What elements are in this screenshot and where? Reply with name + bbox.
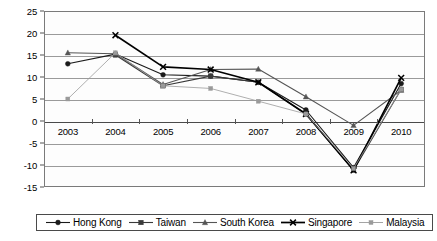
x-tick-mark [282,119,283,124]
data-point-marker [398,75,404,81]
legend-item-malaysia[interactable]: Malaysia [355,217,427,228]
y-tick-label: -5 [29,138,37,149]
series-layer [44,11,425,187]
x-tick-mark [92,119,93,124]
legend-label: South Korea [220,217,274,228]
legend-swatch-filled-triangle-icon [192,217,218,228]
data-point-marker [303,94,308,99]
series-south-korea [65,50,404,128]
y-axis: 2520151050-5-10-15 [0,0,44,241]
data-point-marker [66,97,70,101]
legend-label: Malaysia [386,217,424,228]
data-point-marker [208,74,213,79]
x-tick-mark [235,119,236,124]
x-tick-label: 2003 [58,126,78,137]
x-tick-mark [187,119,188,124]
legend-item-hong-kong[interactable]: Hong Kong [42,217,125,228]
legend-swatch-filled-square-icon [128,217,154,228]
x-tick-label: 2005 [153,126,173,137]
legend-item-taiwan[interactable]: Taiwan [125,217,189,228]
x-tick-mark [377,119,378,124]
legend-item-south-korea[interactable]: South Korea [189,217,277,228]
y-tick-label: 15 [27,50,37,61]
x-tick-label: 2004 [105,126,125,137]
y-tick-label: 0 [32,116,37,127]
x-tick-label: 2009 [343,126,363,137]
y-tick-label: 10 [27,72,37,83]
y-tick-label: -15 [24,182,37,193]
legend-label: Hong Kong [73,217,122,228]
y-tick-label: -10 [24,160,37,171]
data-point-marker [369,221,373,225]
legend-label: Singapore [308,217,352,228]
legend-label: Taiwan [156,217,186,228]
x-tick-mark [330,119,331,124]
data-point-marker [352,167,356,171]
data-point-marker [56,220,61,225]
data-point-marker [113,32,119,38]
legend-swatch-filled-diamond-icon [45,217,71,228]
x-tick-label: 2008 [296,126,316,137]
x-tick-mark [139,119,140,124]
y-tick-label: 5 [32,94,37,105]
data-point-marker [161,84,165,88]
data-point-marker [65,61,70,66]
legend-item-singapore[interactable]: Singapore [277,217,355,228]
x-tick-label: 2006 [201,126,221,137]
x-tick-label: 2010 [391,126,411,137]
legend-swatch-light-square-icon [358,217,384,228]
data-point-marker [113,51,117,55]
y-tick-label: 25 [27,6,37,17]
data-point-marker [399,87,403,91]
chart-legend: Hong KongTaiwanSouth KoreaSingaporeMalay… [36,214,433,231]
data-point-marker [138,220,143,225]
data-point-marker [304,112,308,116]
x-tick-label: 2007 [248,126,268,137]
legend-swatch-cross-x-icon [280,217,306,228]
data-point-marker [161,72,166,77]
data-point-marker [209,86,213,90]
y-tick-label: 20 [27,28,37,39]
line-chart: 2520151050-5-10-15 200320042005200620072… [0,0,437,241]
data-point-marker [256,99,260,103]
